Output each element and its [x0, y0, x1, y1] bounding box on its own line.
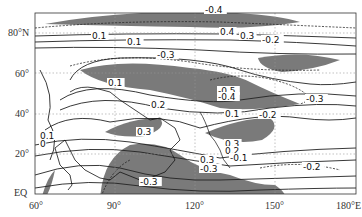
- y-tick-eq: EQ: [14, 187, 27, 198]
- contour-label: -0.3: [157, 50, 175, 60]
- x-tick-180: 180°E: [336, 200, 361, 211]
- contour-map: -0.40.10.1-0.30.40.3-0.20.10.2-0.5-0.4-0…: [0, 0, 362, 217]
- contour-label: -0.3: [200, 164, 218, 174]
- y-tick-60: 60°: [15, 68, 29, 79]
- y-tick-20: 20°: [15, 148, 29, 159]
- x-tick-150: 150°: [265, 200, 284, 211]
- contour-label: 0: [40, 139, 46, 149]
- contour-label: 0.3: [137, 127, 151, 137]
- y-tick-80: 80°N: [8, 27, 29, 38]
- x-tick-90: 90°: [107, 200, 121, 211]
- contour-label: -0.3: [140, 177, 158, 187]
- contour-label: -0.2: [262, 35, 280, 45]
- contour-label: -0.4: [218, 92, 236, 102]
- x-tick-120: 120°: [185, 200, 204, 211]
- contour-label: -0.2: [259, 110, 277, 120]
- contour-label: 0.2: [151, 100, 165, 110]
- contour-label: -0.4: [205, 5, 223, 15]
- contour-label: 0.3: [240, 31, 254, 41]
- contour-label: -0.2: [303, 162, 321, 172]
- x-tick-60: 60°: [29, 200, 43, 211]
- contour-label: 0.1: [127, 37, 141, 47]
- contour-label: -0.3: [306, 94, 324, 104]
- contour-label: 0.4: [220, 27, 235, 37]
- contour-label: 0.1: [108, 78, 122, 88]
- y-tick-40: 40°: [15, 108, 29, 119]
- contour-label: 0.1: [92, 31, 106, 41]
- contour-label: -0.1: [230, 153, 248, 163]
- contour-label: 0.1: [225, 109, 239, 119]
